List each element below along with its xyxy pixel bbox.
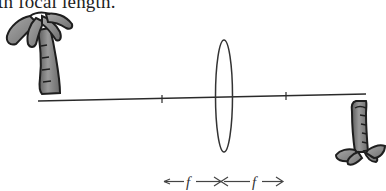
right-focal-label: f [252,174,258,190]
lens-diagram: f f [0,0,386,191]
converging-lens-icon [216,40,233,152]
palm-tree-object-icon [7,13,72,94]
left-focal-label: f [186,174,192,190]
optical-axis [38,94,366,101]
focal-length-dimension [164,177,283,186]
palm-tree-image-inverted-icon [336,101,385,165]
